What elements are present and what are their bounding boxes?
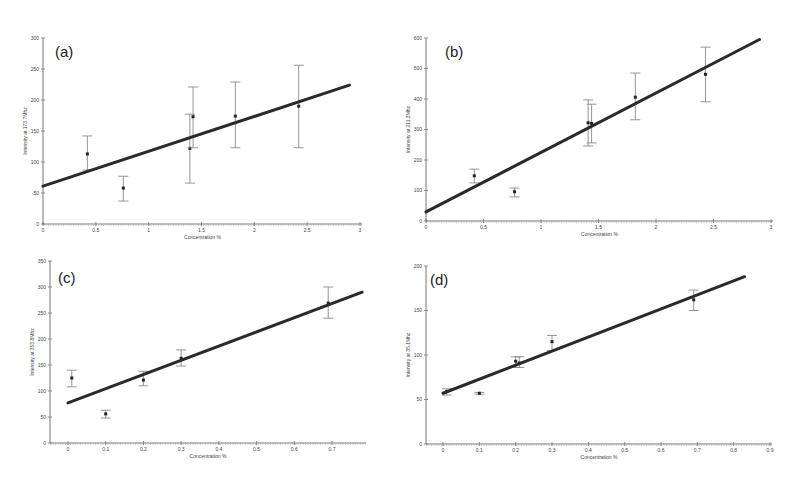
data-point (700, 47, 710, 102)
panel-c: 05010015020025030035000.10.20.30.40.50.6… (29, 258, 366, 459)
point-marker (551, 340, 554, 343)
y-tick-label: 50 (416, 396, 422, 402)
x-tick-label: 0.3 (178, 446, 185, 452)
data-point (230, 82, 240, 148)
data-point (101, 410, 111, 418)
x-tick-label: 2 (253, 227, 256, 233)
y-axis-title: Intensity at 173.7Mhz (22, 107, 28, 155)
x-tick-label: 0 (42, 227, 45, 233)
y-tick-label: 150 (31, 128, 40, 134)
x-tick-label: 0.1 (102, 446, 109, 452)
x-tick-label: 0.8 (730, 447, 737, 453)
fit-line (426, 40, 760, 212)
point-marker (692, 298, 695, 301)
x-tick-label: 0.7 (694, 447, 701, 453)
panel-label: (c) (58, 269, 76, 286)
y-tick-label: 100 (414, 352, 423, 358)
y-tick-label: 200 (31, 97, 40, 103)
x-tick-label: 2.5 (710, 224, 717, 230)
x-tick-label: 0.3 (549, 447, 556, 453)
y-tick-label: 150 (414, 307, 423, 313)
panel-a: 05010015020025030000.511.522.53Concentra… (22, 35, 362, 240)
point-marker (86, 152, 89, 155)
y-axis-title: Intensity at 353.8Mhz (29, 328, 35, 376)
x-axis-title: Concentration % (190, 453, 228, 459)
x-axis-title: Concentration % (581, 454, 619, 460)
point-marker (70, 377, 73, 380)
x-tick-label: 0.5 (92, 227, 99, 233)
x-axis-title: Concentration % (581, 231, 619, 237)
x-tick-label: 3 (770, 224, 773, 230)
point-marker (513, 190, 516, 193)
x-tick-label: 0.5 (621, 447, 628, 453)
data-point (82, 136, 92, 170)
y-tick-label: 350 (38, 258, 47, 264)
y-tick-label: 500 (414, 65, 423, 71)
y-tick-label: 600 (414, 35, 423, 41)
x-tick-label: 0.5 (253, 446, 260, 452)
point-marker (514, 360, 517, 363)
y-tick-label: 0 (43, 440, 46, 446)
y-tick-label: 0 (419, 218, 422, 224)
data-point (630, 73, 640, 120)
x-tick-label: 0 (442, 447, 445, 453)
x-tick-label: 0 (67, 446, 70, 452)
panel-label: (a) (55, 43, 73, 60)
x-tick-label: 0.9 (767, 447, 774, 453)
y-tick-label: 200 (414, 157, 423, 163)
y-tick-label: 250 (38, 310, 47, 316)
data-point (118, 176, 128, 201)
x-tick-label: 2 (655, 224, 658, 230)
x-tick-label: 0 (425, 224, 428, 230)
x-tick-label: 0.4 (585, 447, 592, 453)
y-tick-label: 100 (38, 388, 47, 394)
x-tick-label: 0.5 (480, 224, 487, 230)
point-marker (297, 105, 300, 108)
x-tick-label: 1 (540, 224, 543, 230)
y-tick-label: 100 (31, 159, 40, 165)
data-point (67, 370, 77, 387)
x-tick-label: 0.2 (140, 446, 147, 452)
y-axis-title: Intensity at 35.1Mhz (405, 332, 411, 377)
y-tick-label: 100 (414, 187, 423, 193)
x-tick-label: 0.2 (512, 447, 519, 453)
y-tick-label: 300 (38, 284, 47, 290)
x-axis-title: Concentration % (184, 234, 222, 240)
point-marker (122, 187, 125, 190)
point-marker (587, 121, 590, 124)
point-marker (634, 96, 637, 99)
y-tick-label: 50 (40, 414, 46, 420)
data-point (510, 188, 520, 197)
x-tick-label: 0.1 (476, 447, 483, 453)
y-tick-label: 300 (414, 126, 423, 132)
data-point (469, 169, 479, 183)
y-axis-title: Intensity at 211.3Mhz (405, 105, 411, 153)
x-tick-label: 0.7 (329, 446, 336, 452)
y-tick-label: 0 (419, 441, 422, 447)
panel-d: 05010015020000.10.20.30.40.50.60.70.80.9… (405, 263, 774, 460)
fit-line (68, 292, 362, 403)
x-tick-label: 0.4 (215, 446, 222, 452)
y-tick-label: 200 (414, 263, 423, 269)
panel-b: 010020030040050060000.511.522.53Concentr… (405, 35, 773, 237)
panel-label: (d) (430, 271, 448, 288)
x-tick-label: 1 (147, 227, 150, 233)
x-tick-label: 1.5 (198, 227, 205, 233)
data-point (294, 65, 304, 147)
point-marker (192, 115, 195, 118)
fit-line (443, 277, 745, 394)
x-tick-label: 0.6 (291, 446, 298, 452)
point-marker (142, 379, 145, 382)
point-marker (234, 115, 237, 118)
x-tick-label: 3 (359, 227, 362, 233)
y-tick-label: 50 (33, 190, 39, 196)
point-marker (104, 412, 107, 415)
y-tick-label: 250 (31, 66, 40, 72)
figure-grid: 05010015020025030000.511.522.53Concentra… (0, 0, 801, 480)
panel-label: (b) (445, 43, 463, 60)
y-tick-label: 200 (38, 336, 47, 342)
data-point (689, 290, 699, 310)
y-tick-label: 400 (414, 96, 423, 102)
x-tick-label: 1.5 (595, 224, 602, 230)
point-marker (704, 73, 707, 76)
